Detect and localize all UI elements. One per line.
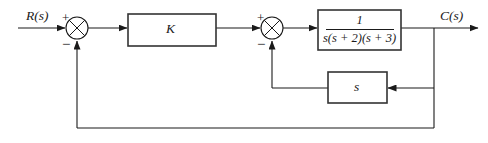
- summer-2-minus-sign: −: [257, 37, 265, 52]
- derivative-block-label: s: [354, 80, 359, 94]
- plant-numerator: 1: [356, 14, 362, 29]
- output-signal-label: C(s): [440, 9, 463, 23]
- plant-denominator: s(s + 2)(s + 3): [323, 30, 396, 46]
- summer-1-plus-sign: +: [62, 11, 69, 24]
- plant-transfer-function: 1 s(s + 2)(s + 3): [319, 11, 400, 49]
- input-signal-label: R(s): [26, 9, 49, 23]
- gain-block-label: K: [166, 22, 175, 36]
- summer-1-minus-sign: −: [62, 37, 70, 52]
- block-diagram-graphics: [0, 0, 488, 143]
- summer-2-plus-sign: +: [257, 11, 264, 24]
- block-diagram-canvas: R(s) C(s) K s 1 s(s + 2)(s + 3) + − + −: [0, 0, 488, 143]
